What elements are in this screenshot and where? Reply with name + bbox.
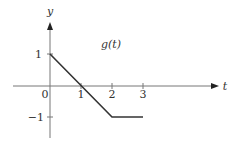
- ytick-label-1: 1: [35, 48, 42, 61]
- function-label: g(t): [101, 38, 121, 51]
- plot: y t g(t) 0 1 2 3 1 −1: [0, 0, 234, 144]
- t-axis-arrow-icon: [211, 83, 219, 89]
- tick-label-1: 1: [78, 88, 85, 101]
- y-axis-arrow-icon: [47, 22, 53, 30]
- ytick-label-m1: −1: [28, 111, 44, 124]
- tick-label-0: 0: [42, 88, 49, 101]
- t-axis-label: t: [223, 80, 228, 93]
- tick-label-2: 2: [109, 88, 116, 101]
- tick-label-3: 3: [140, 88, 147, 101]
- y-axis-label: y: [46, 5, 54, 18]
